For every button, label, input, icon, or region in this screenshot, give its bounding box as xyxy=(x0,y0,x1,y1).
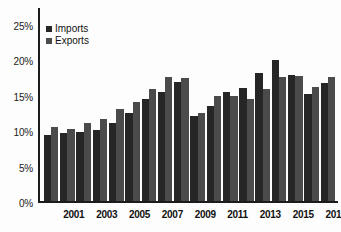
bar-exports-2010 xyxy=(214,96,221,201)
x-tick-label: 2007 xyxy=(151,205,172,229)
bar-exports-2001 xyxy=(67,129,74,201)
bar-group xyxy=(238,8,254,201)
bar-exports-2000 xyxy=(51,127,58,201)
bar-group xyxy=(141,8,157,201)
legend-item-exports: Exports xyxy=(46,36,89,46)
bar-exports-2008 xyxy=(181,78,188,201)
bar-imports-2002 xyxy=(76,132,83,201)
x-tick-label: 2003 xyxy=(86,205,107,229)
bar-group xyxy=(304,8,320,201)
x-tick-label: 2001 xyxy=(53,205,74,229)
bar-exports-2002 xyxy=(84,123,91,201)
bar-imports-2015 xyxy=(288,75,295,201)
x-tick-label xyxy=(41,205,53,229)
bar-imports-2013 xyxy=(255,73,262,201)
bar-exports-2017 xyxy=(328,77,335,201)
bar-imports-2008 xyxy=(174,82,181,201)
bar-imports-2001 xyxy=(60,133,67,201)
bar-exports-2003 xyxy=(100,119,107,201)
y-tick-label: 15% xyxy=(14,91,33,102)
bar-group xyxy=(206,8,222,201)
bar-group xyxy=(190,8,206,201)
bar-exports-2005 xyxy=(133,102,140,201)
bar-imports-2006 xyxy=(142,99,149,201)
y-tick-label: 20% xyxy=(14,56,33,67)
bar-imports-2011 xyxy=(223,92,230,201)
bar-imports-2000 xyxy=(44,135,51,201)
y-tick-label: 25% xyxy=(14,20,33,31)
x-axis-labels: 200120032005200720092011201320152017 xyxy=(38,205,338,229)
bar-group xyxy=(271,8,287,201)
x-tick-label: 2011 xyxy=(217,205,238,229)
bar-imports-2010 xyxy=(207,106,214,201)
legend-item-imports: Imports xyxy=(46,24,89,34)
bar-group xyxy=(320,8,336,201)
bar-exports-2012 xyxy=(247,99,254,201)
bar-imports-2003 xyxy=(93,130,100,201)
legend-label-exports: Exports xyxy=(55,36,89,46)
x-tick-label: 2005 xyxy=(118,205,139,229)
bar-group xyxy=(108,8,124,201)
bar-group xyxy=(287,8,303,201)
bar-exports-2015 xyxy=(295,76,302,201)
legend-swatch-imports-icon xyxy=(46,26,52,32)
bar-imports-2012 xyxy=(239,88,246,201)
legend-label-imports: Imports xyxy=(55,24,88,34)
bar-group xyxy=(173,8,189,201)
bar-chart: 0%5%10%15%20%25% 20012003200520072009201… xyxy=(0,0,341,232)
bar-imports-2004 xyxy=(109,123,116,201)
y-axis-labels: 0%5%10%15%20%25% xyxy=(0,0,38,232)
y-tick-label: 10% xyxy=(14,127,33,138)
x-tick-label: 2017 xyxy=(315,205,336,229)
bar-exports-2013 xyxy=(263,89,270,201)
bar-imports-2014 xyxy=(272,60,279,201)
bar-exports-2004 xyxy=(116,109,123,201)
x-tick-label: 2013 xyxy=(249,205,270,229)
bar-exports-2016 xyxy=(312,87,319,201)
x-tick-label: 2015 xyxy=(282,205,303,229)
bar-group xyxy=(92,8,108,201)
x-tick-label: 2009 xyxy=(184,205,205,229)
bar-group xyxy=(222,8,238,201)
bar-imports-2005 xyxy=(125,113,132,201)
bar-exports-2014 xyxy=(279,77,286,201)
legend: Imports Exports xyxy=(46,24,89,46)
bar-imports-2017 xyxy=(321,83,328,201)
y-tick-label: 0% xyxy=(19,198,33,209)
bar-imports-2009 xyxy=(190,116,197,201)
bar-exports-2007 xyxy=(165,77,172,201)
bar-imports-2007 xyxy=(158,92,165,201)
bar-group xyxy=(157,8,173,201)
bar-imports-2016 xyxy=(304,94,311,201)
y-tick-label: 5% xyxy=(19,162,33,173)
legend-swatch-exports-icon xyxy=(46,38,52,44)
bar-exports-2009 xyxy=(198,113,205,201)
bar-group xyxy=(255,8,271,201)
bar-group xyxy=(124,8,140,201)
bar-exports-2011 xyxy=(230,96,237,201)
bar-exports-2006 xyxy=(149,89,156,201)
